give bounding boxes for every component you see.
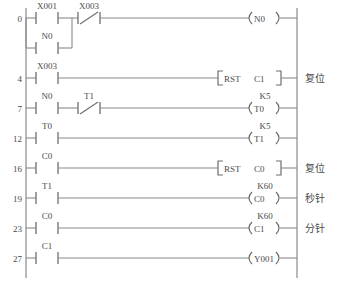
contact-c0: C0 xyxy=(36,151,58,174)
contact-nc-slash-icon xyxy=(80,102,98,114)
instruction-bracket-left xyxy=(218,161,223,175)
coil-preset-value: K5 xyxy=(260,121,271,131)
coil-bracket-left xyxy=(249,252,252,264)
contact-x003: X003 xyxy=(78,1,100,24)
contact-c0: C0 xyxy=(36,211,58,234)
contact-label: X003 xyxy=(79,1,99,11)
coil-t1: T1K5 xyxy=(249,121,279,144)
contact-label: T0 xyxy=(42,121,52,131)
step-number: 0 xyxy=(18,14,23,24)
rung-annotation: 分针 xyxy=(305,222,325,234)
coil-n0: N0 xyxy=(249,12,279,24)
coil-bracket-right xyxy=(276,132,279,144)
coil-bracket-left xyxy=(249,132,252,144)
coil-preset-value: K5 xyxy=(260,91,271,101)
contact-t0: T0 xyxy=(36,121,58,144)
step-number: 4 xyxy=(18,74,23,84)
coil-bracket-left xyxy=(249,192,252,204)
contact-label: C1 xyxy=(42,241,53,251)
contact-label: N0 xyxy=(42,91,53,101)
coil-label: T0 xyxy=(254,104,264,114)
contact-t1: T1 xyxy=(36,181,58,204)
coil-label: N0 xyxy=(254,14,265,24)
step-number: 7 xyxy=(18,104,23,114)
ladder-diagram-canvas: 0X001X003N0N04X003RSTC1复位7N0T1T0K512T0T1… xyxy=(0,0,338,297)
contact-label: X003 xyxy=(37,61,57,71)
ladder-logic-svg: 0X001X003N0N04X003RSTC1复位7N0T1T0K512T0T1… xyxy=(0,0,338,297)
instruction-mnemonic: RST xyxy=(224,164,241,174)
coil-preset-value: K60 xyxy=(257,211,273,221)
step-number: 23 xyxy=(13,224,23,234)
contact-n0: N0 xyxy=(36,91,58,114)
coil-bracket-right xyxy=(276,222,279,234)
contact-n0: N0 xyxy=(36,31,58,54)
instruction-rst: RSTC1 xyxy=(218,71,281,85)
rung-annotation: 复位 xyxy=(305,72,325,84)
contact-label: C0 xyxy=(42,211,53,221)
instruction-bracket-right xyxy=(276,71,281,85)
contact-label: C0 xyxy=(42,151,53,161)
step-number: 12 xyxy=(13,134,22,144)
coil-bracket-right xyxy=(276,102,279,114)
coil-t0: T0K5 xyxy=(249,91,279,114)
contact-label: X001 xyxy=(37,1,57,11)
step-number: 27 xyxy=(13,254,23,264)
coil-bracket-right xyxy=(276,192,279,204)
coil-c0: C0K60 xyxy=(249,181,279,204)
coil-label: C0 xyxy=(254,194,265,204)
coil-bracket-right xyxy=(276,12,279,24)
contact-label: T1 xyxy=(84,91,94,101)
contact-t1: T1 xyxy=(78,91,100,114)
step-number: 16 xyxy=(13,164,23,174)
coil-c1: C1K60 xyxy=(249,211,279,234)
contact-label: N0 xyxy=(42,31,53,41)
contact-label: T1 xyxy=(42,181,52,191)
instruction-operand: C1 xyxy=(254,74,265,84)
instruction-bracket-right xyxy=(276,161,281,175)
coil-y001: Y001 xyxy=(249,252,279,264)
coil-bracket-left xyxy=(249,102,252,114)
rung-annotation: 复位 xyxy=(305,162,325,174)
contact-nc-slash-icon xyxy=(80,12,98,24)
coil-bracket-left xyxy=(249,222,252,234)
coil-label: T1 xyxy=(254,134,264,144)
coil-label: C1 xyxy=(254,224,265,234)
step-number: 19 xyxy=(13,194,23,204)
contact-x003: X003 xyxy=(36,61,58,84)
instruction-operand: C0 xyxy=(254,164,265,174)
coil-preset-value: K60 xyxy=(257,181,273,191)
rung-annotation: 秒针 xyxy=(305,192,325,204)
coil-bracket-right xyxy=(276,252,279,264)
instruction-mnemonic: RST xyxy=(224,74,241,84)
coil-label: Y001 xyxy=(254,254,274,264)
instruction-rst: RSTC0 xyxy=(218,161,281,175)
contact-x001: X001 xyxy=(36,1,58,24)
contact-c1: C1 xyxy=(36,241,58,264)
coil-bracket-left xyxy=(249,12,252,24)
instruction-bracket-left xyxy=(218,71,223,85)
